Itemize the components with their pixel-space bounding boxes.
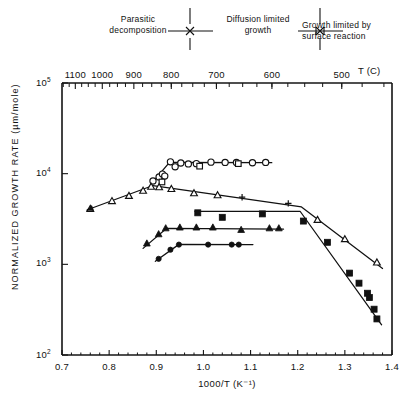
data-point-circle-filled <box>206 242 211 247</box>
top-tick-label: 1100 <box>65 69 86 80</box>
top-axis-tick-labels: 11001000900800700600500 <box>65 69 350 80</box>
data-point-circle-filled <box>156 256 161 261</box>
data-point-circle-open <box>178 160 184 166</box>
arrhenius-plot: 11001000900800700600500 T (C) 0.70.80.91… <box>0 0 417 406</box>
data-point-triangle-filled <box>193 224 200 230</box>
x-tick-label: 0.9 <box>149 361 163 372</box>
data-point-triangle-filled <box>266 225 273 231</box>
y-tick-label-1e2: 102 <box>36 348 51 360</box>
x-tick-label: 1.2 <box>291 361 305 372</box>
y-tick-label-1e5: 105 <box>36 76 51 88</box>
data-point-square-filled <box>356 280 362 286</box>
data-point-triangle-open <box>109 198 116 204</box>
top-tick-label: 800 <box>163 69 179 80</box>
y-axis-tick-labels: 105 104 103 102 <box>36 76 51 360</box>
x-tick-label: 1.0 <box>197 361 211 372</box>
series-layer <box>87 159 383 325</box>
data-point-triangle-filled <box>176 224 183 230</box>
data-point-square-filled <box>347 270 353 276</box>
data-point-circle-filled <box>229 242 234 247</box>
data-point-circle-open <box>208 159 214 165</box>
data-point-square-filled <box>366 295 372 301</box>
series-filled-square-series <box>195 210 382 325</box>
top-tick-label: 500 <box>334 69 350 80</box>
y-tick-label-1e3: 103 <box>36 256 51 268</box>
data-point-circle-open <box>249 160 255 166</box>
data-point-square-open <box>197 163 203 169</box>
x-axis-title: 1000/T (K⁻¹) <box>198 378 256 389</box>
data-point-circle-open <box>222 159 228 165</box>
data-point-circle-open <box>172 164 178 170</box>
data-point-circle-filled <box>168 247 173 252</box>
series-line-filled-triangle-series <box>143 228 283 248</box>
data-point-square-open <box>159 179 165 185</box>
top-tick-label: 900 <box>126 69 142 80</box>
x-axis-tick-labels: 0.70.80.91.01.11.21.31.4 <box>55 361 399 372</box>
top-tick-label: 600 <box>264 69 280 80</box>
data-point-square-filled <box>195 210 201 216</box>
x-tick-label: 1.3 <box>338 361 352 372</box>
data-point-square-filled <box>371 306 377 312</box>
data-point-circle-filled <box>176 242 181 247</box>
data-point-triangle-filled <box>275 225 282 231</box>
data-point-square-filled <box>324 239 330 245</box>
data-point-circle-open <box>263 159 269 165</box>
top-tick-label: 700 <box>208 69 224 80</box>
x-tick-label: 0.8 <box>102 361 116 372</box>
data-point-square-filled <box>374 316 380 322</box>
data-point-plus <box>239 194 245 200</box>
top-tick-label: 1000 <box>91 69 113 80</box>
y-axis-ticks <box>62 83 68 355</box>
plot-frame <box>62 83 392 355</box>
figure-root: Parasitic decomposition Diffusion limite… <box>0 0 417 406</box>
data-point-circle-filled <box>236 242 241 247</box>
series-open-triangle-series <box>87 183 383 268</box>
x-tick-label: 1.1 <box>244 361 258 372</box>
x-tick-label: 0.7 <box>55 361 69 372</box>
data-point-triangle-filled <box>209 224 216 230</box>
data-point-circle-open <box>162 173 168 179</box>
top-axis-ticks <box>63 83 384 89</box>
data-point-square-filled <box>300 218 306 224</box>
data-point-square-filled <box>219 214 225 220</box>
data-point-square-open <box>236 161 242 167</box>
data-point-circle-open <box>167 159 173 165</box>
data-point-square-filled <box>259 211 265 217</box>
data-point-circle-open <box>185 161 191 167</box>
x-tick-label: 1.4 <box>385 361 399 372</box>
y-axis-title: NORMALIZED GROWTH RATE (µm/mole) <box>10 83 20 290</box>
y-tick-label-1e4: 104 <box>36 166 51 178</box>
top-axis-title: T (C) <box>358 65 380 76</box>
series-filled-circle-series <box>155 242 253 261</box>
series-open-circle-series <box>150 159 272 185</box>
